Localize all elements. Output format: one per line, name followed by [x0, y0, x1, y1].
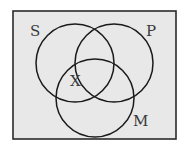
label-s: S [30, 22, 40, 40]
label-p: P [146, 22, 156, 40]
label-m: M [133, 112, 148, 130]
venn-diagram: S P M X [0, 0, 188, 152]
label-x: X [70, 72, 81, 90]
